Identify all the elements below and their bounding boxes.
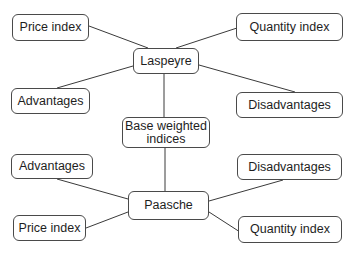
node-laspeyre-advantages[interactable]: Advantages <box>11 88 90 114</box>
edge-laspeyre-price-index <box>89 26 148 48</box>
node-paasche-disadvantages[interactable]: Disadvantages <box>237 154 342 180</box>
node-laspeyre-quantity-index[interactable]: Quantity index <box>236 13 343 41</box>
node-label: Paasche <box>144 199 193 212</box>
edge-paasche-advantages <box>57 179 128 199</box>
node-paasche[interactable]: Paasche <box>128 191 209 220</box>
edge-paasche-quantity-index <box>209 212 240 232</box>
edge-laspeyre-quantity-index <box>176 28 237 48</box>
node-label: Price index <box>20 21 82 34</box>
edge-paasche-price-index <box>86 212 128 228</box>
node-laspeyre-disadvantages[interactable]: Disadvantages <box>236 92 343 118</box>
node-label-line-1: Base weighted <box>125 120 207 133</box>
node-label: Laspeyre <box>140 55 191 68</box>
node-paasche-advantages[interactable]: Advantages <box>11 154 93 179</box>
node-base-weighted-indices[interactable]: Base weighted indices <box>122 117 210 148</box>
node-laspeyre[interactable]: Laspeyre <box>133 48 199 74</box>
edge-laspeyre-advantages <box>57 66 133 88</box>
edge-paasche-disadvantages <box>209 180 283 201</box>
node-label: Advantages <box>17 95 83 108</box>
node-label: Disadvantages <box>248 161 331 174</box>
node-label: Quantity index <box>250 223 330 236</box>
node-label: Advantages <box>19 160 85 173</box>
node-paasche-quantity-index[interactable]: Quantity index <box>238 216 342 243</box>
node-label: Disadvantages <box>248 99 331 112</box>
node-label: Price index <box>19 222 81 235</box>
node-label: Quantity index <box>250 21 330 34</box>
node-paasche-price-index[interactable]: Price index <box>13 215 86 241</box>
edge-laspeyre-disadvantages <box>199 65 295 92</box>
node-label-line-2: indices <box>147 133 186 146</box>
node-laspeyre-price-index[interactable]: Price index <box>12 14 89 41</box>
